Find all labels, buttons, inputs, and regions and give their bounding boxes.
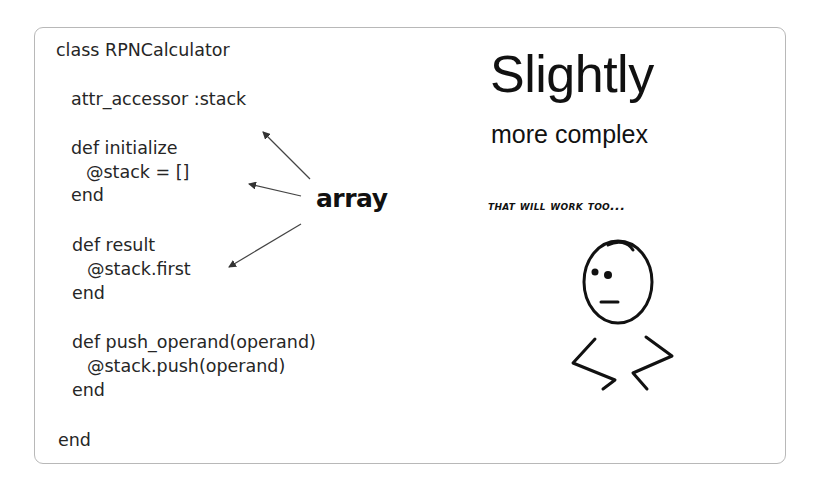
arrow-to-result [229, 224, 301, 267]
arrow-to-attr-accessor [263, 132, 310, 179]
stick-figure-icon [573, 241, 672, 389]
arrow-to-initialize [249, 184, 301, 196]
annotation-arrows [0, 0, 825, 495]
